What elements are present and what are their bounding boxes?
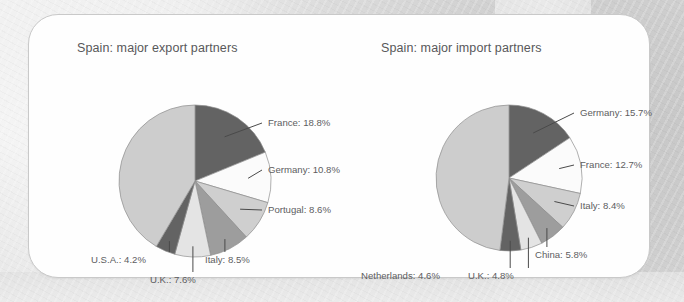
pie-label-text: U.K.: 4.8% [468,270,514,281]
pie-label-text: China: 5.8% [535,249,588,260]
pie-svg-import: Germany: 15.7%France: 12.7%Italy: 8.4%Ch… [339,15,649,277]
pie-label-text: Germany: 15.7% [580,107,652,118]
pie-label-text: France: 18.8% [268,117,331,128]
pie-label-text: U.K.: 7.6% [150,274,196,285]
pie-label-text: Italy: 8.5% [205,254,250,265]
pie-label-text: U.S.A.: 4.2% [91,254,146,265]
pie-label-text: Italy: 8.4% [580,200,625,211]
pie-label-text: Netherlands: 4.6% [361,270,440,281]
pie-svg-export: France: 18.8%Germany: 10.8%Portugal: 8.6… [29,15,339,277]
pie-label-text: France: 12.7% [580,159,643,170]
pie-label-text: Germany: 10.8% [268,164,340,175]
pie-label-text: Portugal: 8.6% [268,204,331,215]
pie-slice-other [436,105,509,250]
figure-card: Spain: major export partners France: 18.… [28,14,650,278]
